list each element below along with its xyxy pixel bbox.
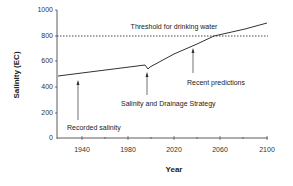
svg-text:2060: 2060 xyxy=(212,146,228,153)
svg-text:Salinity and Drainage Strategy: Salinity and Drainage Strategy xyxy=(121,100,216,108)
annotation-recorded-salinity: Recorded salinity xyxy=(67,80,121,132)
svg-text:1940: 1940 xyxy=(74,146,90,153)
svg-text:Recorded salinity: Recorded salinity xyxy=(67,124,121,132)
threshold-label: Threshold for drinking water xyxy=(131,23,218,31)
salinity-chart: 1000 800 600 400 200 0 1940 1980 2020 20… xyxy=(0,0,293,186)
annotation-recent-predictions: Recent predictions xyxy=(187,48,245,87)
svg-text:400: 400 xyxy=(41,83,53,90)
svg-text:1980: 1980 xyxy=(120,146,136,153)
svg-text:2020: 2020 xyxy=(166,146,182,153)
svg-text:800: 800 xyxy=(41,32,53,39)
y-ticks: 1000 800 600 400 200 0 xyxy=(37,6,57,141)
svg-text:1000: 1000 xyxy=(37,6,53,13)
salinity-line xyxy=(58,23,267,76)
svg-text:200: 200 xyxy=(41,109,53,116)
svg-text:Recent predictions: Recent predictions xyxy=(187,79,245,87)
x-axis-label: Year xyxy=(166,165,183,174)
annotation-strategy: Salinity and Drainage Strategy xyxy=(121,72,216,108)
y-axis-label: Salinity (EC) xyxy=(12,51,21,98)
x-ticks: 1940 1980 2020 2060 2100 xyxy=(74,136,275,153)
svg-text:0: 0 xyxy=(49,134,53,141)
svg-text:2100: 2100 xyxy=(259,146,275,153)
svg-text:600: 600 xyxy=(41,57,53,64)
